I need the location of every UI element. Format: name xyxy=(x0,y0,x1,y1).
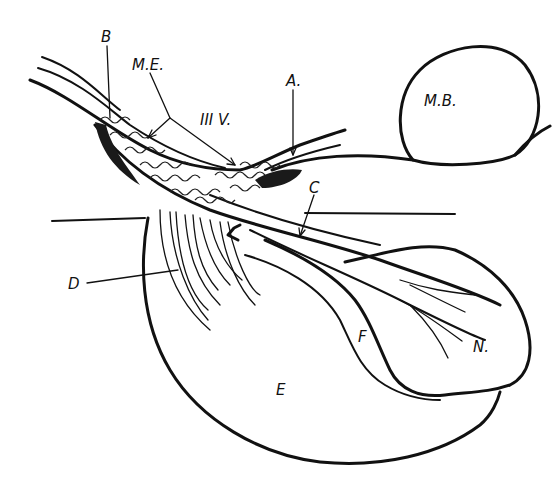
label-n: N. xyxy=(473,338,489,356)
label-median-eminence: M.E. xyxy=(132,56,164,74)
leader-me-1 xyxy=(148,73,170,138)
label-e: E xyxy=(276,381,286,399)
label-third-ventricle: III V. xyxy=(200,111,231,129)
posterior-lobe-outline xyxy=(265,240,530,396)
label-a: A. xyxy=(285,72,301,90)
label-d: D xyxy=(68,275,80,293)
stalk-upper-line-2 xyxy=(38,68,225,168)
pituitary-diagram: B M.E. III V. A. M.B. C D E F N. xyxy=(0,0,554,486)
leader-d xyxy=(87,270,178,283)
label-c: C xyxy=(309,179,320,197)
leader-c xyxy=(300,195,314,236)
diaphragma-line xyxy=(52,213,455,221)
label-f: F xyxy=(358,328,367,346)
anterior-lobe-outline xyxy=(143,218,500,463)
diagram-canvas: B M.E. III V. A. M.B. C D E F N. xyxy=(0,0,554,486)
label-mammillary-body: M.B. xyxy=(424,92,457,110)
mammillary-body-outline xyxy=(400,46,538,164)
label-b: B xyxy=(101,28,111,46)
hypothalamic-floor xyxy=(272,126,550,170)
intermediate-lobe-line xyxy=(245,255,440,400)
